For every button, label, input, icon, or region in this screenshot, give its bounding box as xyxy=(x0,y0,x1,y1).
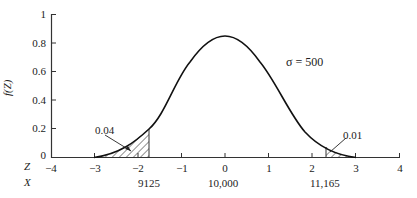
right-tail-shaded-region xyxy=(326,147,356,158)
z-tick-label: 0 xyxy=(210,163,240,174)
y-tick-label: 1 xyxy=(22,9,46,20)
x-value-label: 10,000 xyxy=(208,178,238,189)
z-tick-label: 1 xyxy=(254,163,284,174)
left-area-label: 0.04 xyxy=(95,125,114,136)
right-area-label: 0.01 xyxy=(343,130,362,141)
x-row-label: X xyxy=(24,177,31,188)
y-tick-label: 0.2 xyxy=(22,123,46,134)
y-tick-label: 0.8 xyxy=(22,38,46,49)
x-value-label: 9125 xyxy=(134,178,164,189)
sigma-annotation: σ = 500 xyxy=(286,57,323,68)
z-tick-label: −1 xyxy=(167,163,197,174)
x-value-label: 11,165 xyxy=(310,178,340,189)
z-row-label: Z xyxy=(24,161,30,172)
z-tick-label: −2 xyxy=(123,163,153,174)
z-tick-label: −3 xyxy=(80,163,110,174)
z-tick-label: −4 xyxy=(36,163,66,174)
y-tick-label: 0.4 xyxy=(22,95,46,106)
y-tick-label: 0.6 xyxy=(22,66,46,77)
z-tick-label: 2 xyxy=(297,163,327,174)
y-axis-label: f(Z) xyxy=(2,80,13,97)
z-tick-label: 3 xyxy=(341,163,371,174)
z-tick-label: 4 xyxy=(385,163,415,174)
